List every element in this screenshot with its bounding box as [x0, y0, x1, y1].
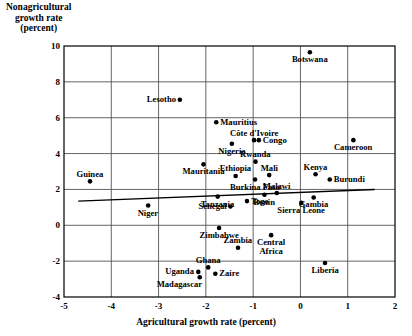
- y-tick-4: 4: [36, 149, 60, 159]
- point-label-sierra-leone: Sierra Leone: [277, 206, 325, 215]
- x-tick-0: -5: [52, 301, 76, 311]
- point-label-togo: Togo: [251, 197, 269, 206]
- x-tick-3: -2: [194, 301, 218, 311]
- point-label-liberia: Liberia: [312, 266, 339, 275]
- x-tick-4: -1: [241, 301, 265, 311]
- y-tick-5: 6: [36, 113, 60, 123]
- point-label-mali: Mali: [261, 164, 278, 173]
- x-tick-5: 0: [288, 301, 312, 311]
- y-tick-7: 10: [36, 41, 60, 51]
- point-label-ethiopia: Ethiopia: [220, 164, 252, 173]
- point-label-burundi: Burundi: [334, 175, 365, 184]
- chart-canvas: Nonagricultural growth rate (percent) -5…: [0, 0, 412, 336]
- point-label-guinea: Guinea: [77, 170, 104, 179]
- point-label-niger: Niger: [138, 209, 159, 218]
- point-label-kenya: Kenya: [304, 163, 328, 172]
- x-tick-7: 2: [383, 301, 407, 311]
- y-tick-0: -4: [36, 292, 60, 302]
- point-label-rwanda: Rwanda: [240, 150, 271, 159]
- point-label-senegal: Senegal: [198, 202, 226, 211]
- y-tick-3: 2: [36, 184, 60, 194]
- point-label-lesotho: Lesotho: [147, 95, 176, 104]
- y-tick-6: 8: [36, 77, 60, 87]
- y-tick-2: 0: [36, 220, 60, 230]
- point-label-mauritania: Mauritania: [182, 167, 224, 176]
- point-label-botswana: Botswana: [292, 55, 328, 64]
- point-label-zambia: Zambia: [224, 236, 253, 245]
- x-tick-6: 1: [336, 301, 360, 311]
- point-label-uganda: Uganda: [165, 267, 194, 276]
- x-tick-2: -3: [147, 301, 171, 311]
- point-label-zaire: Zaire: [219, 269, 239, 278]
- point-label-mauritius: Mauritius: [220, 118, 257, 127]
- point-label-congo: Congo: [263, 136, 287, 145]
- x-axis-title: Agricultural growth rate (percent): [0, 317, 412, 327]
- point-label-central-africa: Central Africa: [250, 238, 292, 256]
- point-label-cameroon: Cameroon: [334, 143, 373, 152]
- y-tick-1: -2: [36, 256, 60, 266]
- point-label-malawi: Malawi: [263, 182, 291, 191]
- x-tick-1: -4: [99, 301, 123, 311]
- point-label-madagascar: Madagascar: [157, 280, 202, 289]
- point-label-ghana: Ghana: [196, 256, 221, 265]
